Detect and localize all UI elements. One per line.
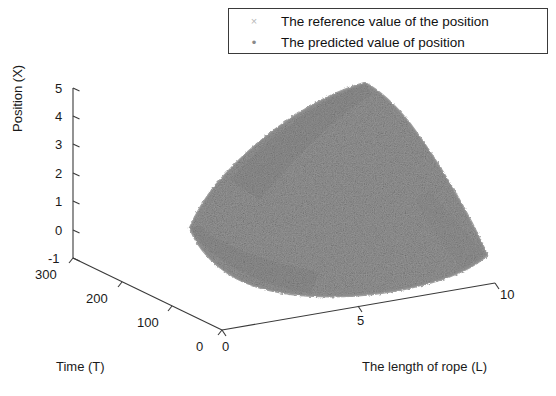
y-axis-title: Time (T) (56, 359, 105, 374)
z-tick-0: 0 (55, 223, 62, 238)
x-tick-5: 5 (357, 313, 364, 328)
z-tick-5: 5 (55, 81, 62, 96)
x-axis-title: The length of rope (L) (362, 359, 487, 374)
x-tick-0: 0 (222, 339, 229, 354)
legend-label-predicted: The predicted value of position (281, 35, 465, 50)
legend-marker-cross-icon: × (243, 16, 265, 27)
z-tick-neg1: -1 (48, 251, 60, 266)
y-tick-0: 0 (196, 339, 203, 354)
data-surface-point-cloud (180, 75, 500, 315)
z-tick-4: 4 (55, 109, 62, 124)
plot-canvas (0, 0, 556, 396)
legend: × The reference value of the position • … (228, 8, 548, 54)
z-tick-1: 1 (55, 194, 62, 209)
x-tick-10: 10 (500, 287, 514, 302)
legend-label-reference: The reference value of the position (281, 14, 489, 29)
z-tick-3: 3 (55, 137, 62, 152)
legend-marker-dot-icon: • (243, 36, 265, 49)
y-tick-300: 300 (35, 267, 57, 282)
y-tick-200: 200 (86, 291, 108, 306)
legend-entry-predicted: • The predicted value of position (229, 32, 547, 53)
z-axis-title: Position (X) (10, 65, 25, 132)
z-tick-2: 2 (55, 166, 62, 181)
figure-3d-position-plot: Position (X) 5 4 3 2 1 0 -1 300 200 100 … (0, 0, 556, 396)
legend-entry-reference: × The reference value of the position (229, 11, 547, 32)
y-tick-100: 100 (137, 315, 159, 330)
